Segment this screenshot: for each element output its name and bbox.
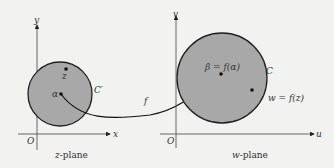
u-axis-label: u (316, 129, 322, 139)
x-axis-label: x (113, 129, 118, 139)
alpha-label: α (52, 89, 58, 99)
c-label: C (266, 66, 273, 76)
z-plane-caption: z-plane (54, 150, 88, 160)
conformal-mapping-diagram: x y O C′ α z z-plane f u v O C β = f(α) … (0, 0, 334, 168)
beta-label: β = f(α) (204, 62, 240, 72)
v-axis-label: v (173, 9, 178, 19)
c-prime-label: C′ (94, 85, 103, 95)
point-beta (219, 72, 223, 76)
origin-label-z: O (27, 136, 35, 146)
z-plane: x y O C′ α z z-plane (18, 15, 118, 160)
w-plane: u v O C β = f(α) w = f(z) w-plane (160, 9, 322, 160)
origin-label-w: O (167, 136, 175, 146)
z-point-label: z (61, 71, 67, 81)
w-label: w = f(z) (268, 93, 305, 103)
mapping-label-f: f (143, 96, 149, 106)
point-w (250, 88, 254, 92)
w-plane-caption: w-plane (232, 150, 268, 160)
disk-c (177, 33, 267, 123)
y-axis-label: y (33, 15, 40, 25)
